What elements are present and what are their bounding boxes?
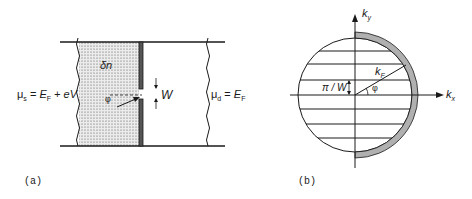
drain-potential-label: μd = EF bbox=[211, 89, 245, 102]
width-arrow-up bbox=[154, 98, 158, 102]
barrier-upper bbox=[139, 42, 143, 89]
angle-label-b: φ bbox=[372, 84, 378, 93]
caption-a: (a) bbox=[24, 177, 42, 187]
kf-label: kF bbox=[375, 66, 385, 79]
barrier-lower bbox=[139, 99, 143, 146]
width-arrow-down bbox=[154, 85, 158, 89]
ky-label: ky bbox=[362, 8, 371, 21]
caption-b: (b) bbox=[298, 177, 316, 187]
kx-label: kx bbox=[446, 89, 455, 102]
angle-label-a: φ bbox=[105, 95, 111, 104]
width-label: W bbox=[161, 89, 172, 101]
phi-arc bbox=[366, 88, 368, 95]
spacing-label: π / W bbox=[322, 83, 346, 93]
source-potential-label: μs = EF + eV bbox=[17, 89, 77, 102]
panel-b-graphic bbox=[290, 14, 444, 168]
density-label: δn bbox=[100, 60, 112, 71]
panel-a-graphic bbox=[60, 38, 225, 146]
right-wavy-line bbox=[207, 38, 210, 146]
